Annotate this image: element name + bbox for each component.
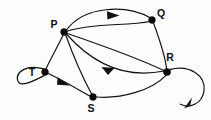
arrowhead-p-to-q	[107, 11, 120, 19]
node-label-p: P	[50, 18, 57, 30]
node-s[interactable]	[90, 94, 97, 101]
edge-p-to-r-upper	[67, 34, 164, 71]
directed-graph-figure: P Q R S T	[0, 0, 211, 120]
arrowhead-t-to-s	[57, 77, 70, 85]
edge-q-to-p-lower	[67, 22, 150, 32]
node-label-s: S	[87, 102, 94, 114]
edge-s-to-r	[96, 75, 166, 97]
node-r[interactable]	[163, 68, 170, 75]
edge-p-to-t	[46, 35, 63, 69]
node-label-t: T	[29, 66, 36, 78]
node-label-q: Q	[157, 7, 165, 19]
edge-t-to-s	[48, 74, 90, 96]
arrowhead-self-loop-r	[184, 98, 192, 109]
edge-r-to-p-lower	[67, 35, 164, 74]
graph-canvas: P Q R S T	[0, 0, 211, 120]
node-label-r: R	[166, 51, 174, 63]
node-t[interactable]	[42, 69, 49, 76]
arrowhead-r-to-p	[102, 67, 115, 75]
node-q[interactable]	[149, 17, 156, 24]
edge-q-to-r	[154, 23, 167, 69]
self-loop-r	[170, 68, 205, 106]
node-p[interactable]	[61, 29, 68, 36]
